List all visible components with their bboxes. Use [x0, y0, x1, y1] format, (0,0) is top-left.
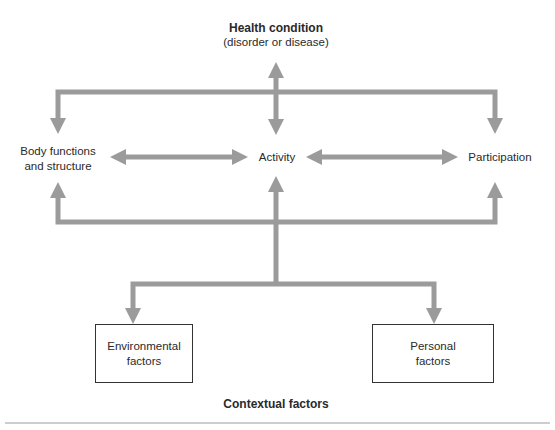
health-condition-subtitle: (disorder or disease): [176, 35, 376, 50]
node-environmental-line2: factors: [127, 354, 162, 369]
node-environmental-factors: Environmental factors: [95, 324, 193, 383]
contextual-factors-label: Contextual factors: [176, 397, 376, 412]
contextual-split-line: [133, 284, 434, 316]
node-body-line2: and structure: [8, 159, 108, 174]
node-personal-line1: Personal: [410, 339, 455, 354]
health-condition-title: Health condition: [176, 21, 376, 36]
node-personal-line2: factors: [416, 354, 451, 369]
node-participation: Participation: [455, 150, 545, 165]
node-body-functions: Body functions and structure: [8, 144, 108, 174]
node-activity: Activity: [246, 150, 308, 165]
node-personal-factors: Personal factors: [372, 324, 494, 383]
node-environmental-line1: Environmental: [107, 339, 181, 354]
node-body-line1: Body functions: [8, 144, 108, 159]
